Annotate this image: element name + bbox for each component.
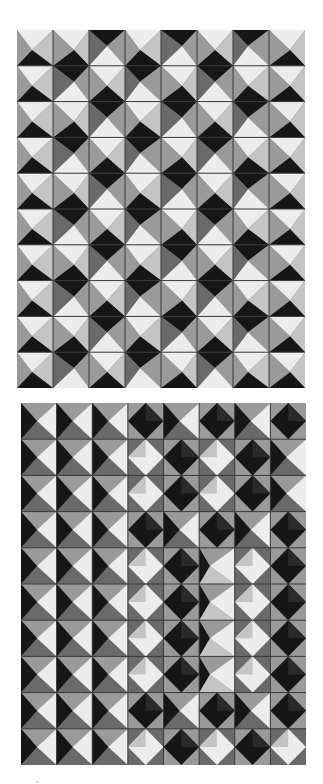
bottom-relief-panel: [21, 403, 306, 765]
top-relief-pattern: [17, 30, 305, 388]
top-relief-panel: [17, 30, 305, 388]
dust-speck: [36, 781, 39, 783]
bottom-relief-pattern: [21, 403, 306, 765]
